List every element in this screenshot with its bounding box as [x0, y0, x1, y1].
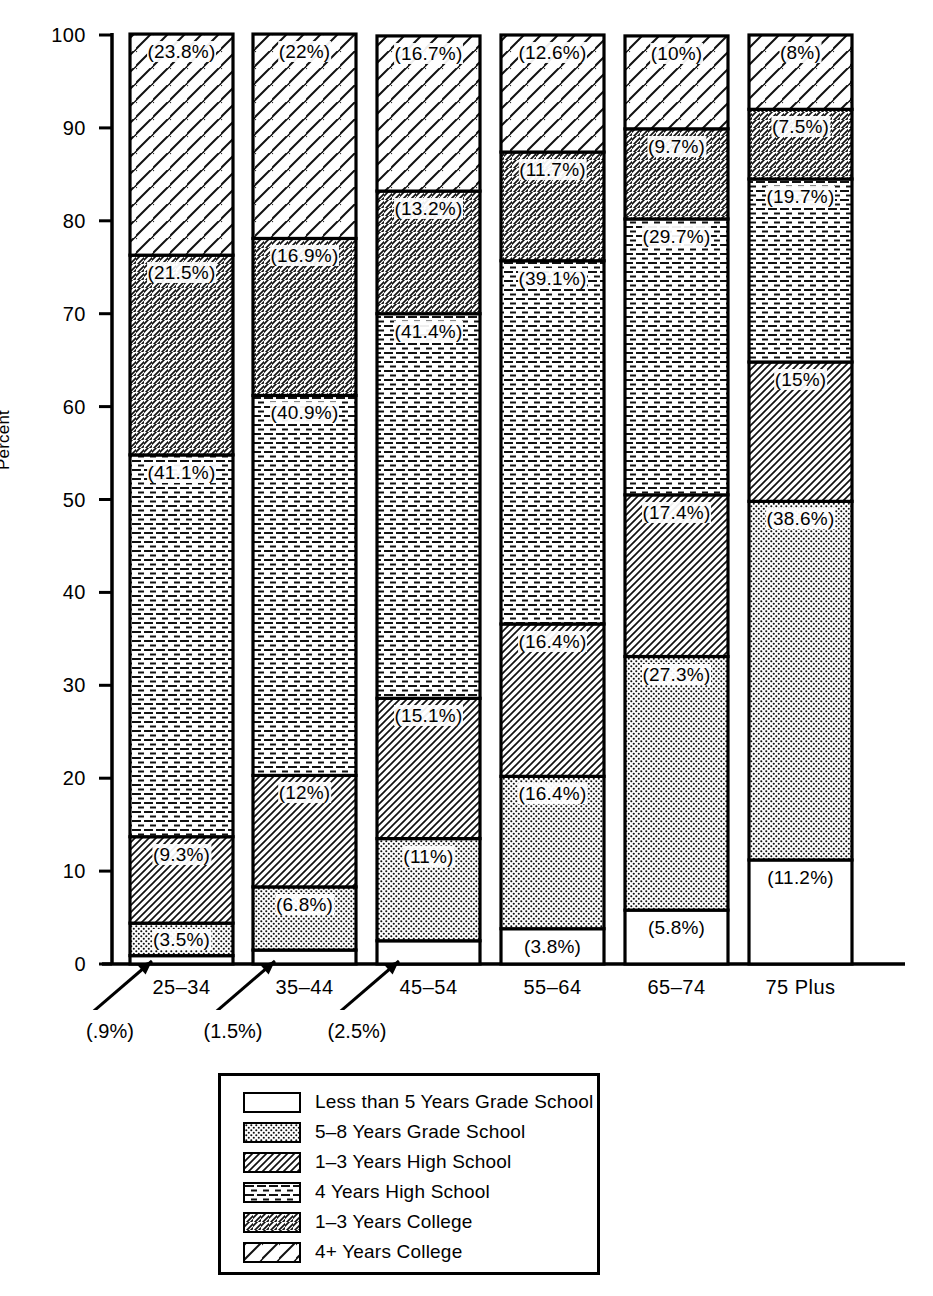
legend-item-2[interactable]: 1–3 Years High School — [243, 1150, 594, 1174]
x-axis-label-4: 65–74 — [647, 976, 705, 999]
legend-label: 4 Years High School — [315, 1181, 490, 1203]
legend-item-1[interactable]: 5–8 Years Grade School — [243, 1120, 594, 1144]
legend-item-4[interactable]: 1–3 Years College — [243, 1210, 594, 1234]
x-axis-label-0: 25–34 — [152, 976, 210, 999]
legend-item-0[interactable]: Less than 5 Years Grade School — [243, 1090, 594, 1114]
legend-swatch-dots-icon — [243, 1122, 301, 1143]
legend-swatch-hatch-back-sparse-icon — [243, 1242, 301, 1263]
x-axis-label-1: 35–44 — [275, 976, 333, 999]
legend-label: 5–8 Years Grade School — [315, 1121, 525, 1143]
x-axis-label-3: 55–64 — [523, 976, 581, 999]
plot-area: Percent 0102030405060708090100 (3.5%)(9.… — [0, 0, 933, 1010]
legend-label: 1–3 Years College — [315, 1211, 473, 1233]
legend-label: 4+ Years College — [315, 1241, 462, 1263]
legend-swatch-hatch-fwd-icon — [243, 1212, 301, 1233]
legend-item-5[interactable]: 4+ Years College — [243, 1240, 594, 1264]
callout-45–54: (2.5%) — [328, 1020, 387, 1043]
legend: Less than 5 Years Grade School5–8 Years … — [218, 1073, 600, 1275]
legend-swatch-hatch-back-dense-icon — [243, 1152, 301, 1173]
stacked-bars — [0, 0, 933, 1010]
callout-25–34: (.9%) — [86, 1020, 134, 1043]
legend-label: 1–3 Years High School — [315, 1151, 511, 1173]
legend-label: Less than 5 Years Grade School — [315, 1091, 594, 1113]
legend-swatch-blank-icon — [243, 1092, 301, 1113]
x-axis-label-2: 45–54 — [399, 976, 457, 999]
callout-35–44: (1.5%) — [204, 1020, 263, 1043]
chart-page: Percent 0102030405060708090100 (3.5%)(9.… — [0, 0, 933, 1296]
x-axis-label-5: 75 Plus — [765, 976, 835, 999]
legend-swatch-horizontal-icon — [243, 1182, 301, 1203]
legend-item-3[interactable]: 4 Years High School — [243, 1180, 594, 1204]
